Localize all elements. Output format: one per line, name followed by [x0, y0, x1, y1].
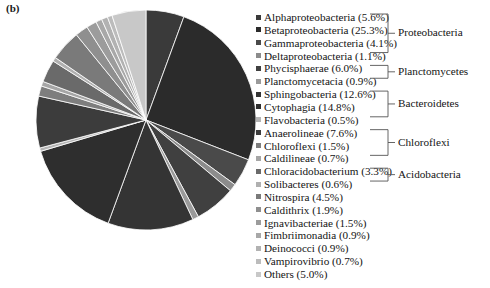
legend-item: Others (5.0%): [256, 265, 327, 283]
legend-swatch-icon: [256, 246, 261, 251]
legend-swatch-icon: [256, 156, 261, 161]
legend-swatch-icon: [256, 66, 261, 71]
legend-swatch-icon: [256, 79, 261, 84]
pie-chart-svg: [34, 8, 258, 232]
panel-label: (b): [6, 2, 19, 14]
legend: Alphaproteobacteria (5.6%)Betaproteobact…: [256, 6, 490, 286]
legend-swatch-icon: [256, 92, 261, 97]
legend-swatch-icon: [256, 104, 261, 109]
legend-swatch-icon: [256, 169, 261, 174]
legend-swatch-icon: [256, 40, 261, 45]
legend-swatch-icon: [256, 27, 261, 32]
figure-panel: (b) Alphaproteobacteria (5.6%)Betaproteo…: [0, 0, 490, 288]
legend-item-label: Others (5.0%): [264, 268, 327, 280]
legend-swatch-icon: [256, 182, 261, 187]
legend-swatch-icon: [256, 207, 261, 212]
legend-swatch-icon: [256, 117, 261, 122]
legend-swatch-icon: [256, 130, 261, 135]
legend-swatch-icon: [256, 233, 261, 238]
legend-swatch-icon: [256, 220, 261, 225]
pie-chart: [34, 8, 258, 232]
legend-swatch-icon: [256, 15, 261, 20]
pie-slice-group: [36, 10, 256, 230]
legend-swatch-icon: [256, 194, 261, 199]
legend-swatch-icon: [256, 53, 261, 58]
legend-swatch-icon: [256, 259, 261, 264]
legend-swatch-icon: [256, 143, 261, 148]
legend-swatch-icon: [256, 272, 261, 277]
